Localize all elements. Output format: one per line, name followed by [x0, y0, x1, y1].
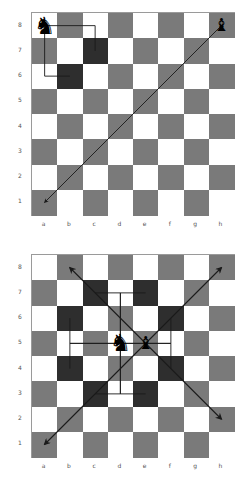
square-b3 — [57, 139, 83, 165]
square-h7 — [209, 38, 235, 64]
square-d8 — [108, 13, 134, 39]
square-h4 — [209, 356, 235, 382]
square-b8 — [57, 13, 83, 39]
square-b8 — [57, 255, 83, 281]
square-f6 — [158, 64, 184, 90]
square-b2 — [57, 407, 83, 433]
rank-label-1: 1 — [15, 439, 25, 446]
square-c5 — [83, 331, 109, 357]
square-e7 — [133, 280, 159, 306]
file-label-h: h — [215, 220, 225, 227]
square-e3 — [133, 381, 159, 407]
square-g2 — [184, 165, 210, 191]
square-g8 — [184, 255, 210, 281]
rank-label-6: 6 — [15, 313, 25, 320]
square-d7 — [108, 38, 134, 64]
square-d4 — [108, 114, 134, 140]
square-c8 — [83, 13, 109, 39]
square-b1 — [57, 190, 83, 216]
file-label-c: c — [89, 220, 99, 227]
square-f6 — [158, 306, 184, 332]
square-c2 — [83, 165, 109, 191]
square-g4 — [184, 114, 210, 140]
rank-label-7: 7 — [15, 46, 25, 53]
square-b1 — [57, 432, 83, 458]
rank-label-3: 3 — [15, 389, 25, 396]
square-e2 — [133, 407, 159, 433]
file-label-e: e — [140, 220, 150, 227]
square-a8 — [32, 255, 58, 281]
square-g3 — [184, 381, 210, 407]
rank-label-5: 5 — [15, 96, 25, 103]
square-e4 — [133, 356, 159, 382]
square-h2 — [209, 165, 235, 191]
square-f8 — [158, 255, 184, 281]
rank-label-5: 5 — [15, 338, 25, 345]
square-f1 — [158, 432, 184, 458]
square-b7 — [57, 280, 83, 306]
square-d1 — [108, 190, 134, 216]
square-b4 — [57, 114, 83, 140]
square-f7 — [158, 280, 184, 306]
square-g7 — [184, 38, 210, 64]
square-a4 — [32, 356, 58, 382]
square-b7 — [57, 38, 83, 64]
black-knight-a8: ♞ — [32, 13, 57, 38]
square-d1 — [108, 432, 134, 458]
square-h3 — [209, 381, 235, 407]
square-e8 — [133, 13, 159, 39]
file-label-d: d — [114, 220, 124, 227]
square-g8 — [184, 13, 210, 39]
square-g2 — [184, 407, 210, 433]
square-d3 — [108, 139, 134, 165]
square-c3 — [83, 139, 109, 165]
square-d6 — [108, 306, 134, 332]
rank-label-8: 8 — [15, 21, 25, 28]
square-d2 — [108, 407, 134, 433]
square-a7 — [32, 38, 58, 64]
rank-label-4: 4 — [15, 122, 25, 129]
square-h6 — [209, 306, 235, 332]
square-a1 — [32, 432, 58, 458]
square-f2 — [158, 165, 184, 191]
black-knight-d5: ♞ — [108, 331, 133, 356]
square-d4 — [108, 356, 134, 382]
square-h7 — [209, 280, 235, 306]
square-d6 — [108, 64, 134, 90]
square-f5 — [158, 89, 184, 115]
black-bishop-e5: ♝ — [133, 331, 158, 356]
rank-label-4: 4 — [15, 364, 25, 371]
square-h3 — [209, 139, 235, 165]
square-c4 — [83, 356, 109, 382]
square-h5 — [209, 331, 235, 357]
square-d2 — [108, 165, 134, 191]
square-h5 — [209, 89, 235, 115]
square-d8 — [108, 255, 134, 281]
rank-label-8: 8 — [15, 263, 25, 270]
square-f4 — [158, 356, 184, 382]
file-label-h: h — [215, 462, 225, 469]
square-b3 — [57, 381, 83, 407]
square-a2 — [32, 407, 58, 433]
rank-label-2: 2 — [15, 172, 25, 179]
square-a7 — [32, 280, 58, 306]
square-e6 — [133, 64, 159, 90]
file-label-b: b — [64, 220, 74, 227]
square-e7 — [133, 38, 159, 64]
file-label-g: g — [190, 462, 200, 469]
square-g5 — [184, 331, 210, 357]
square-c1 — [83, 190, 109, 216]
square-c7 — [83, 280, 109, 306]
square-c5 — [83, 89, 109, 115]
square-d3 — [108, 381, 134, 407]
square-e4 — [133, 114, 159, 140]
square-d5 — [108, 89, 134, 115]
chessboard — [31, 254, 235, 458]
square-d7 — [108, 280, 134, 306]
file-label-g: g — [190, 220, 200, 227]
square-a3 — [32, 139, 58, 165]
square-g3 — [184, 139, 210, 165]
square-e1 — [133, 432, 159, 458]
square-a4 — [32, 114, 58, 140]
square-f4 — [158, 114, 184, 140]
